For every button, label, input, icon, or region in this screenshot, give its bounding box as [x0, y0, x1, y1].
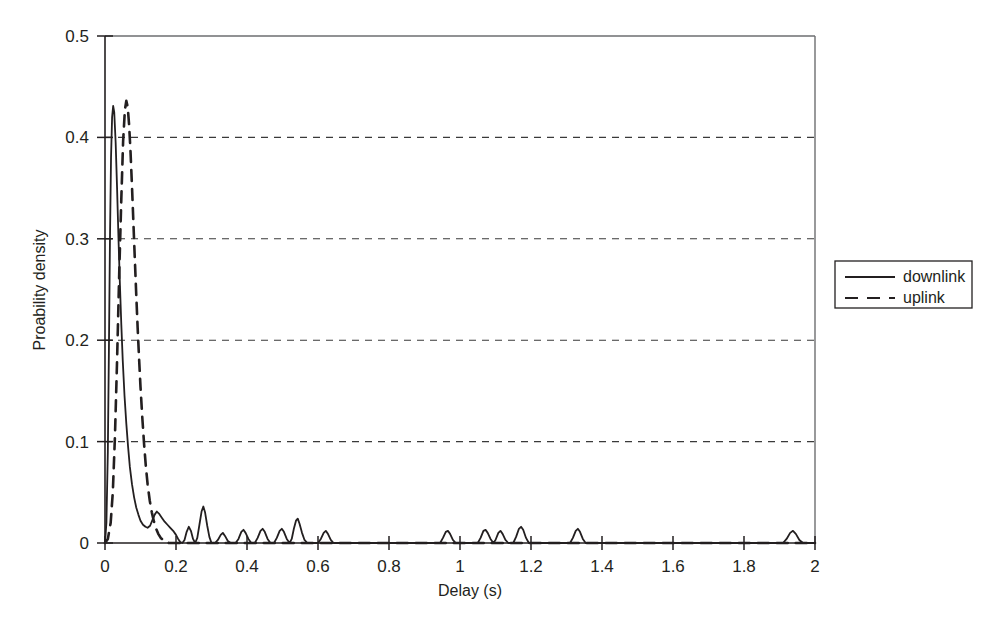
x-tick-label: 1	[455, 557, 464, 576]
x-tick-label: 0.6	[306, 557, 330, 576]
legend-label-downlink: downlink	[903, 268, 966, 285]
x-tick-label: 1.8	[732, 557, 756, 576]
x-tick-label: 1.6	[661, 557, 685, 576]
series-line-uplink	[105, 101, 815, 543]
y-tick-label: 0.5	[65, 27, 89, 46]
x-tick-label: 0.2	[164, 557, 188, 576]
x-tick-label: 2	[810, 557, 819, 576]
x-tick-label: 0	[100, 557, 109, 576]
horizontal-gridlines	[105, 137, 815, 441]
x-tick-label: 1.4	[590, 557, 614, 576]
x-tick-label: 1.2	[519, 557, 543, 576]
x-tick-label: 0.8	[377, 557, 401, 576]
probability-density-chart: 00.10.20.30.40.5 00.20.40.60.811.21.41.6…	[0, 0, 1002, 623]
chart-canvas: 00.10.20.30.40.5 00.20.40.60.811.21.41.6…	[0, 0, 1002, 623]
plot-frame	[105, 36, 815, 543]
legend: downlink uplink	[835, 261, 972, 308]
y-tick-label: 0.4	[65, 128, 89, 147]
y-axis: 00.10.20.30.40.5	[65, 27, 113, 553]
y-tick-label: 0	[80, 534, 89, 553]
x-tick-label: 0.4	[235, 557, 259, 576]
series-line-downlink	[105, 106, 815, 543]
legend-label-uplink: uplink	[903, 289, 946, 306]
y-tick-label: 0.2	[65, 331, 89, 350]
x-axis-title: Delay (s)	[438, 582, 502, 599]
data-series-group	[105, 101, 815, 543]
y-tick-label: 0.3	[65, 230, 89, 249]
y-tick-label: 0.1	[65, 433, 89, 452]
y-axis-title: Proability density	[31, 230, 48, 351]
